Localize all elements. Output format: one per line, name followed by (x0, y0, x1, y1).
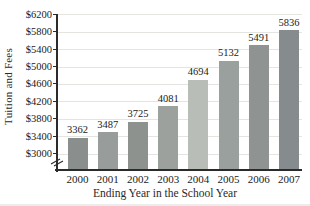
x-axis-title: Ending Year in the School Year (55, 187, 275, 199)
bar-2002 (128, 122, 148, 170)
bar-2000 (68, 138, 88, 170)
y-tick-label: $5000 (12, 60, 52, 73)
y-tick-label: $3000 (12, 147, 52, 160)
bar-2007 (279, 30, 299, 170)
bar-chart-figure: Tuition and Fees Ending Year in the Scho… (0, 0, 310, 206)
bar-2006 (249, 45, 269, 170)
y-tick-label: $3800 (12, 112, 52, 125)
gridline (58, 14, 302, 15)
x-axis-line (55, 169, 302, 171)
bar-2005 (219, 61, 239, 170)
bar-2001 (98, 132, 118, 170)
y-tick-label: $4200 (12, 95, 52, 108)
bar-value-label: 4694 (176, 65, 220, 78)
bar-value-label: 4081 (146, 92, 190, 105)
y-tick-label: $5400 (12, 43, 52, 56)
bar-value-label: 5836 (267, 16, 310, 29)
y-tick-label: $6200 (12, 8, 52, 21)
y-tick-label: $5800 (12, 25, 52, 38)
scan-edge-artifact (0, 204, 310, 206)
x-tick-label: 2007 (271, 173, 307, 186)
bar-value-label: 5491 (237, 31, 281, 44)
bar-value-label: 5132 (207, 46, 251, 59)
y-tick-label: $3400 (12, 130, 52, 143)
bar-value-label: 3725 (116, 107, 160, 120)
bar-2003 (158, 106, 178, 170)
y-axis-line (56, 14, 58, 172)
bar-2004 (188, 80, 208, 170)
y-tick-label: $4600 (12, 77, 52, 90)
